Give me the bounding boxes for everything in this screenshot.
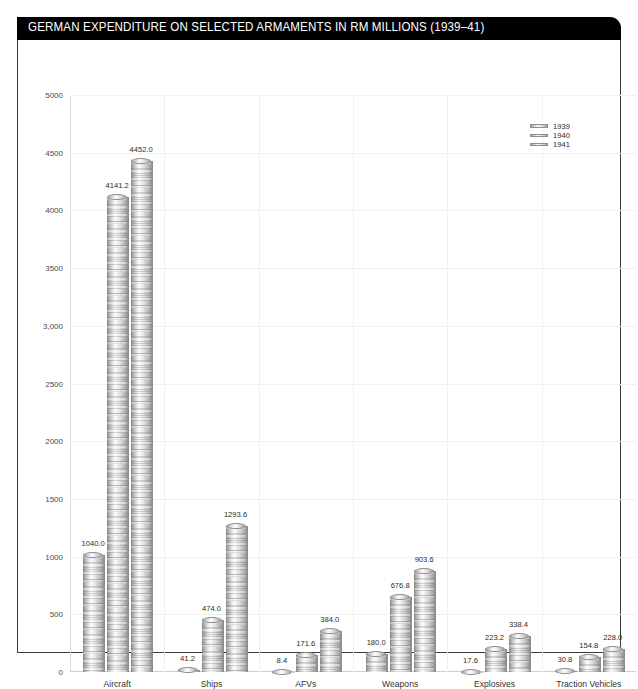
y-axis-tick-label: 1000 <box>45 552 63 561</box>
chart-title: GERMAN EXPENDITURE ON SELECTED ARMAMENTS… <box>28 20 484 34</box>
bar[interactable]: 903.6 <box>414 568 434 672</box>
bar[interactable]: 1040.0 <box>83 552 103 672</box>
bar-value-label: 384.0 <box>320 615 339 624</box>
bar[interactable]: 41.2 <box>178 667 198 672</box>
chart-legend: 193919401941 <box>530 122 578 150</box>
bar-top-ellipse <box>555 668 575 674</box>
bar-value-label: 1040.0 <box>82 539 105 548</box>
bar[interactable]: 8.4 <box>272 669 292 672</box>
bar-top-ellipse <box>178 667 198 673</box>
bar-top-ellipse <box>390 594 410 600</box>
legend-label: 1941 <box>553 140 570 149</box>
y-axis-tick-label: 5000 <box>45 91 63 100</box>
bar-top-ellipse <box>509 633 529 639</box>
bar-body <box>107 197 129 672</box>
bar-value-label: 338.4 <box>509 620 528 629</box>
y-axis-tick-label: 3500 <box>45 264 63 273</box>
legend-label: 1939 <box>553 122 570 131</box>
x-axis-label: Traction Vehicles <box>556 679 621 689</box>
bar[interactable]: 338.4 <box>509 633 529 672</box>
bar[interactable]: 171.6 <box>296 652 316 672</box>
bar-value-label: 30.8 <box>557 655 572 664</box>
legend-item[interactable]: 1939 <box>530 122 578 131</box>
bar-body <box>320 631 342 672</box>
bar-top-ellipse <box>320 628 340 634</box>
bar-value-label: 4141.2 <box>106 181 129 190</box>
bar-value-label: 223.2 <box>485 633 504 642</box>
y-axis-tick-label: 3,000 <box>43 321 63 330</box>
x-axis-label: Weapons <box>382 679 418 689</box>
bar[interactable]: 1293.6 <box>226 523 246 672</box>
y-axis-tick-label: 4500 <box>45 148 63 157</box>
bar[interactable]: 223.2 <box>485 646 505 672</box>
x-axis-label: Aircraft <box>104 679 131 689</box>
bar-value-label: 676.8 <box>391 581 410 590</box>
y-axis-tick-label: 4000 <box>45 206 63 215</box>
bar-top-ellipse <box>414 568 434 574</box>
bar-body <box>509 636 531 672</box>
gridline-vertical <box>542 95 543 672</box>
x-axis-label: AFVs <box>295 679 316 689</box>
bar-value-label: 903.6 <box>415 555 434 564</box>
bar-body <box>202 620 224 672</box>
chart-header-banner: GERMAN EXPENDITURE ON SELECTED ARMAMENTS… <box>17 17 621 40</box>
bar-body <box>226 526 248 672</box>
bar-top-ellipse <box>603 646 623 652</box>
y-axis-tick-label: 1500 <box>45 494 63 503</box>
bar-body <box>485 649 507 672</box>
y-axis-tick-label: 2500 <box>45 379 63 388</box>
bar-body <box>414 571 436 672</box>
bar-value-label: 474.0 <box>202 604 221 613</box>
y-axis-tick-label: 2000 <box>45 437 63 446</box>
legend-item[interactable]: 1941 <box>530 140 578 149</box>
bar[interactable]: 17.6 <box>461 669 481 672</box>
x-axis-label: Ships <box>201 679 223 689</box>
bar-value-label: 171.6 <box>296 639 315 648</box>
y-axis-tick-label: 0 <box>59 668 63 677</box>
bar-body <box>390 597 412 672</box>
plot-inner: 050010001500200025003,000350040004500500… <box>70 95 636 672</box>
bar-value-label: 154.8 <box>579 641 598 650</box>
gridline-vertical <box>447 95 448 672</box>
gridline-vertical <box>259 95 260 672</box>
bar[interactable]: 4141.2 <box>107 194 127 672</box>
bar[interactable]: 4452.0 <box>131 158 151 672</box>
bar-body <box>83 555 105 672</box>
y-axis-tick-label: 500 <box>50 610 63 619</box>
legend-swatch <box>530 143 548 147</box>
legend-item[interactable]: 1940 <box>530 131 578 140</box>
bar-value-label: 8.4 <box>277 656 288 665</box>
bar-top-ellipse <box>461 669 481 675</box>
bar-body <box>603 649 625 672</box>
gridline-vertical <box>353 95 354 672</box>
bar-top-ellipse <box>272 669 292 675</box>
bar[interactable]: 180.0 <box>366 651 386 672</box>
bar-value-label: 4452.0 <box>130 145 153 154</box>
bar[interactable]: 228.0 <box>603 646 623 672</box>
plot-area: 050010001500200025003,000350040004500500… <box>70 95 636 672</box>
bar[interactable]: 474.0 <box>202 617 222 672</box>
bar-value-label: 1293.6 <box>224 510 247 519</box>
bar-value-label: 17.6 <box>463 656 478 665</box>
x-axis-label: Explosives <box>474 679 515 689</box>
bar[interactable]: 676.8 <box>390 594 410 672</box>
bar-top-ellipse <box>226 523 246 529</box>
bar-value-label: 41.2 <box>180 654 195 663</box>
bar-body <box>131 161 153 672</box>
bar[interactable]: 154.8 <box>579 654 599 672</box>
gridline-vertical <box>164 95 165 672</box>
bar[interactable]: 30.8 <box>555 668 575 672</box>
bar-value-label: 228.0 <box>603 633 622 642</box>
legend-swatch <box>530 124 548 128</box>
bar[interactable]: 384.0 <box>320 628 340 672</box>
legend-swatch <box>530 134 548 138</box>
bar-top-ellipse <box>83 552 103 558</box>
legend-label: 1940 <box>553 131 570 140</box>
bar-value-label: 180.0 <box>367 638 386 647</box>
chart-frame: 050010001500200025003,000350040004500500… <box>17 40 621 653</box>
